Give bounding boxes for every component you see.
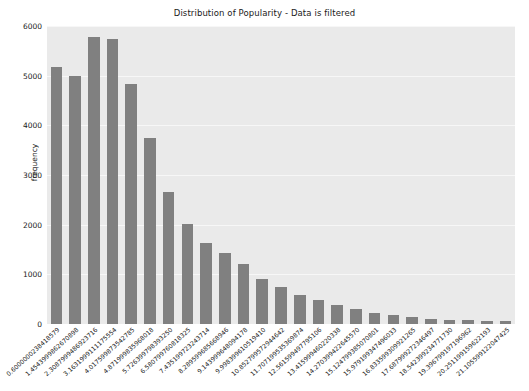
bar [350,309,362,324]
bar-slot [178,26,197,324]
bar-slot [290,26,309,324]
bar-slot [47,26,66,324]
bar-slot [365,26,384,324]
bar [238,264,250,324]
bar-series [47,26,515,324]
bar [69,76,81,324]
bar-slot [384,26,403,324]
bar-slot [122,26,141,324]
bar-slot [66,26,85,324]
bar [313,300,325,324]
bar [369,313,381,324]
bar-slot [328,26,347,324]
bar-slot [496,26,515,324]
bar [163,192,175,324]
bar-slot [103,26,122,324]
bar [88,37,100,324]
bar [107,39,119,324]
bar-slot [215,26,234,324]
bar [200,243,212,324]
bar [144,138,156,324]
bar-slot [197,26,216,324]
y-tick-label: 0 [6,320,42,329]
bar-slot [421,26,440,324]
bar [388,315,400,324]
y-tick-label: 6000 [6,22,42,31]
bar [51,67,63,324]
bar [294,295,306,324]
y-tick-label: 2000 [6,220,42,229]
y-tick-label: 5000 [6,71,42,80]
x-axis-ticks: 0.60000002384185791.45439998626708982.30… [47,324,515,391]
bar-slot [459,26,478,324]
bar-slot [309,26,328,324]
bar-slot [347,26,366,324]
bar [219,253,231,324]
bar-slot [440,26,459,324]
bar-slot [272,26,291,324]
bar-slot [234,26,253,324]
bar-slot [84,26,103,324]
bar [125,84,137,324]
bar-slot [253,26,272,324]
bar [182,224,194,324]
plot-area [47,26,515,324]
bar [275,287,287,324]
bar-slot [403,26,422,324]
bar-slot [141,26,160,324]
bar [331,305,343,324]
bar-slot [159,26,178,324]
y-tick-label: 1000 [6,270,42,279]
chart-figure: Distribution of Popularity - Data is fil… [0,0,529,391]
y-axis-label: frequency [30,123,39,203]
bar [406,317,418,324]
bar [256,279,268,324]
bar-slot [478,26,497,324]
